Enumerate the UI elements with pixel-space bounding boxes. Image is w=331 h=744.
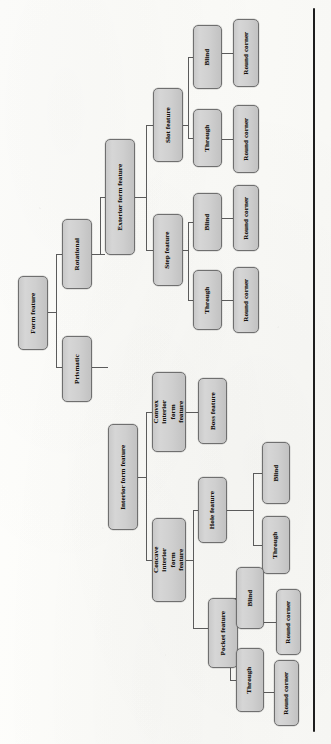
connector-line [188,57,189,138]
node-label: Convex interior form feature [152,396,186,428]
connector-line [186,412,198,413]
connector-line [222,218,233,219]
connector-line [193,510,194,628]
node-label: Through [246,666,254,693]
connector-line [146,125,153,126]
connector-line [135,197,146,198]
connector-line [183,125,188,126]
node-label: Interior form feature [119,444,127,509]
node-label: Round corner [242,32,250,75]
node-label: Through [203,286,211,313]
node-hole-through[interactable]: Through [262,516,290,574]
node-label: Form feature [29,293,37,334]
connector-line [264,622,276,623]
node-slot-blind-rc[interactable]: Round corner [233,19,259,87]
node-prismatic[interactable]: Prismatic [62,336,92,402]
node-hole-blind[interactable]: Blind [262,442,290,504]
node-label: Through [203,124,211,151]
node-step-blind[interactable]: Blind [193,193,222,251]
node-label: Round corner [242,118,250,161]
node-label: Round corner [284,601,292,644]
node-pocket-blind-rc[interactable]: Round corner [276,589,301,655]
connector-line [92,367,108,368]
connector-line [146,412,147,560]
node-exterior-form-feature[interactable]: Exterior form feature [105,139,135,255]
node-pocket-feature[interactable]: Pocket feature [208,598,238,668]
connector-line [146,250,153,251]
node-slot-through-rc[interactable]: Round corner [233,105,259,173]
node-label: Blind [246,590,254,607]
node-label: Pocket feature [219,611,227,656]
connector-line [188,222,189,300]
connector-line [100,197,101,254]
node-label: Slot feature [164,107,172,143]
node-label: Rotational [73,238,81,270]
node-convex-interior[interactable]: Convex interior form feature [152,372,186,452]
node-label: Blind [203,214,211,231]
node-form-feature[interactable]: Form feature [18,276,48,350]
connector-line [193,628,208,629]
connector-line [253,473,262,474]
node-boss-feature[interactable]: Boss feature [198,378,227,444]
node-label: Round corner [242,197,250,240]
node-pocket-blind[interactable]: Blind [236,567,264,629]
connector-line [253,473,254,545]
connector-line [138,477,146,478]
node-label: Through [272,531,280,558]
node-label: Boss feature [208,392,216,430]
node-pocket-through-rc[interactable]: Round corner [274,660,299,726]
node-label: Blind [272,465,280,482]
connector-line [253,545,262,546]
connector-line [222,300,233,301]
node-label: Exterior form feature [116,164,124,231]
connector-line [92,254,105,255]
connector-line [48,312,56,313]
node-hole-feature[interactable]: Hole feature [198,477,227,543]
node-label: Concave interior form feature [152,544,186,576]
connector-line [222,53,233,54]
node-slot-feature[interactable]: Slot feature [153,88,183,162]
node-rotational[interactable]: Rotational [62,219,92,289]
connector-line [56,254,57,367]
connector-line [227,510,253,511]
node-concave-interior[interactable]: Concave interior form feature [152,518,186,602]
node-label: Prismatic [73,354,81,384]
node-label: Hole feature [208,491,216,529]
node-slot-blind[interactable]: Blind [193,25,222,89]
diagram-canvas: Form featureRotationalPrismaticExterior … [0,0,331,744]
connector-line [146,125,147,250]
node-slot-through[interactable]: Through [193,109,222,167]
connector-line [222,139,233,140]
node-label: Round corner [282,672,290,715]
node-label: Blind [203,49,211,66]
node-label: Round corner [242,279,250,322]
connector-line [186,560,193,561]
node-step-blind-rc[interactable]: Round corner [233,185,259,251]
connector-line [183,250,188,251]
connector-line [264,692,274,693]
node-pocket-through[interactable]: Through [236,648,264,712]
node-step-through[interactable]: Through [193,270,222,330]
node-step-through-rc[interactable]: Round corner [233,267,259,333]
node-label: Step feature [164,231,172,268]
node-step-feature[interactable]: Step feature [153,214,183,286]
node-interior-form-feature[interactable]: Interior form feature [108,424,138,530]
book-spine-edge [313,8,315,732]
